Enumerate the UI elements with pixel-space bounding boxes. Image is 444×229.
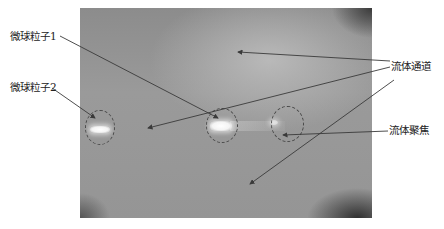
figure: 微球粒子1 微球粒子2 流体通道 流体聚焦 xyxy=(0,0,444,229)
label-particle-1: 微球粒子1 xyxy=(10,30,57,42)
label-fluid-channel: 流体通道 xyxy=(391,60,431,72)
annotation-arrows xyxy=(0,0,444,229)
label-particle-2: 微球粒子2 xyxy=(10,81,57,93)
label-fluid-focus: 流体聚焦 xyxy=(389,124,429,136)
